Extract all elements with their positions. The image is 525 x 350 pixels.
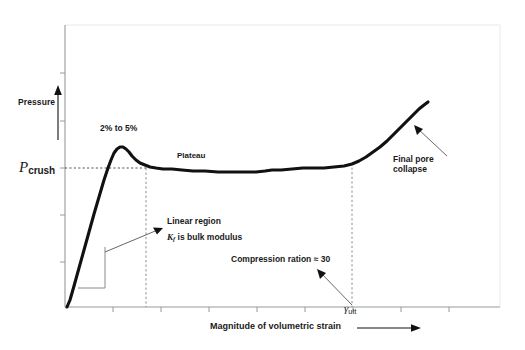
final-pore-collapse-leader [414, 125, 447, 156]
final-pore-collapse-label: Final pore collapse [393, 155, 434, 175]
linear-region-label: Linear region [167, 217, 221, 227]
p-crush-label: Pcrush [19, 159, 55, 176]
bulk-modulus-label: Kf is bulk modulus [167, 232, 242, 243]
figure-canvas: Pressure Pcrush 2% to 5% Plateau Linear … [0, 0, 525, 350]
x-axis-ticks [113, 307, 449, 312]
final-pore-collapse-line-2: collapse [393, 164, 427, 174]
x-axis-title: Magnitude of volumetric strain [210, 321, 341, 331]
y-axis-ticks [60, 73, 65, 262]
compression-ratio-label: Compression ration ≈ 30 [231, 255, 330, 265]
pressure-direction-arrow [54, 85, 62, 140]
bulk-modulus-text: is bulk modulus [175, 232, 242, 242]
pressure-strain-plot [0, 0, 525, 350]
linear-region-leader [105, 228, 163, 253]
y-axis-title: Pressure [18, 98, 55, 108]
p-crush-subscript: crush [28, 165, 55, 176]
p-crush-symbol: P [19, 159, 28, 175]
gamma-ult-subscript: ult [348, 307, 356, 316]
peak-strain-range-label: 2% to 5% [100, 124, 137, 134]
final-pore-collapse-line-1: Final pore [393, 154, 434, 164]
gamma-ult-label: γult [344, 302, 356, 316]
compression-ratio-leader [317, 269, 352, 305]
plateau-label: Plateau [177, 151, 205, 160]
x-axis-direction-arrow [357, 324, 421, 332]
